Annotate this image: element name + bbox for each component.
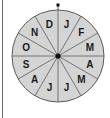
segment-label: J: [47, 82, 53, 93]
segment-label: N: [31, 27, 38, 38]
segment-label: J: [64, 82, 70, 93]
segment-label: M: [86, 42, 94, 53]
segment-label: D: [46, 19, 53, 30]
center-hub-icon: [55, 53, 60, 58]
segment-label: O: [22, 42, 30, 53]
month-wheel: JFMAMJJASOND: [0, 0, 110, 118]
segment-label: A: [31, 74, 38, 85]
segment-label: S: [23, 59, 30, 70]
pointer-dot-icon: [57, 4, 60, 7]
segment-label: F: [78, 27, 84, 38]
segment-label: M: [77, 74, 85, 85]
segment-label: J: [64, 19, 70, 30]
segment-label: A: [86, 59, 93, 70]
